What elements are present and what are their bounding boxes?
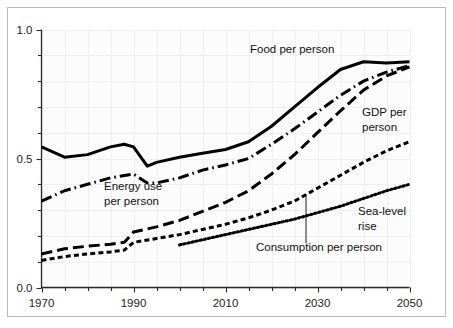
x-tick-label: 1990 [121,297,147,309]
x-tick-label: 1970 [29,297,55,309]
series-label-sealevel-line2: rise [358,220,377,232]
chart-figure: 0.00.51.0 19701990201020302050 Food per … [0,0,453,328]
series-label-sealevel-line1: Sea-level [358,205,406,217]
y-axis-tick-labels: 0.00.51.0 [17,24,33,294]
plot-container: 0.00.51.0 19701990201020302050 Food per … [0,0,453,328]
series-label-gdp-line2: person [362,121,397,133]
series-label-energy-line1: Energy use [104,180,162,192]
line-chart: 0.00.51.0 19701990201020302050 Food per … [0,0,453,328]
series-label-consumption: Consumption per person [256,241,382,253]
x-tick-label: 2010 [213,297,239,309]
series-label-energy-line2: per person [104,195,159,207]
series-label-food: Food per person [250,43,334,55]
x-axis-tick-labels: 19701990201020302050 [29,297,423,309]
series-label-gdp-line1: GDP per [362,106,407,118]
y-tick-label: 0.5 [17,153,33,165]
y-tick-label: 0.0 [17,282,33,294]
y-tick-label: 1.0 [17,24,33,36]
x-tick-label: 2030 [305,297,331,309]
x-tick-label: 2050 [397,297,423,309]
